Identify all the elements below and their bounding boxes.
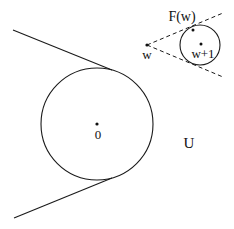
region-u-label: U	[184, 135, 195, 151]
w-label: w	[142, 47, 152, 62]
f-of-w-label: F(w)	[168, 9, 196, 25]
w-plus-1-label: w+1	[191, 46, 214, 61]
origin-label: 0	[95, 127, 102, 142]
upper-tangent-line	[13, 30, 112, 70]
lower-tangent-line	[14, 178, 112, 218]
diagram-canvas: 0 w w+1 F(w) U	[0, 0, 234, 229]
origin-point	[95, 122, 98, 125]
f-of-w-point	[192, 29, 195, 32]
